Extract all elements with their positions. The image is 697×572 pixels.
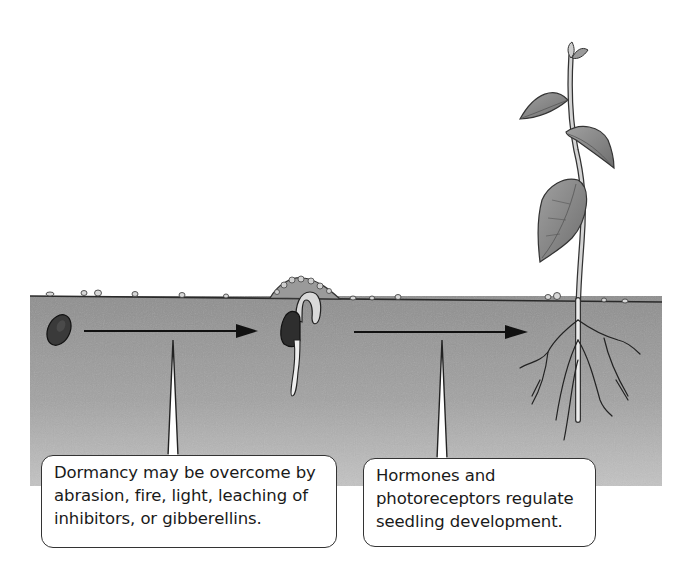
callout-hormones-line-1: Hormones and [376,464,585,487]
germination-diagram: Dormancy may be overcome by abrasion, fi… [0,0,697,572]
callout-dormancy-line-1: Dormancy may be overcome by [54,461,326,484]
callout-hormones: Hormones and photoreceptors regulate see… [363,458,596,547]
callout-dormancy-line-2: abrasion, fire, light, leaching of [54,484,326,507]
callout-hormones-line-3: seedling development. [376,510,585,533]
callout-hormones-line-2: photoreceptors regulate [376,487,585,510]
callout-dormancy-line-3: inhibitors, or gibberellins. [54,507,326,530]
callout-dormancy: Dormancy may be overcome by abrasion, fi… [41,455,337,548]
